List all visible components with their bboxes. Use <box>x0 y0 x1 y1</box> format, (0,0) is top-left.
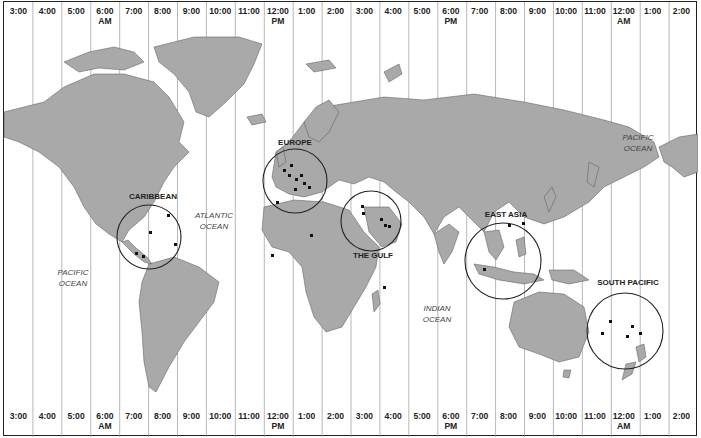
bottom-zone-14: 5:00 <box>408 403 437 435</box>
zone-time: 2:00 <box>327 6 344 16</box>
bottom-time-zone-footer: 3:004:005:006:00AM7:008:009:0010:0011:00… <box>4 403 696 435</box>
zone-time: 9:00 <box>183 411 200 421</box>
zone-time: 4:00 <box>39 6 56 16</box>
zone-time: 9:00 <box>529 6 546 16</box>
zone-time: 12:00 <box>267 6 289 16</box>
zone-meridiem: AM <box>609 16 638 26</box>
top-zone-10: 1:00 <box>292 2 321 34</box>
bottom-zone-9: 12:00PM <box>263 403 292 435</box>
new-guinea <box>549 270 589 284</box>
zone-time: 10:00 <box>209 6 231 16</box>
zone-time: 3:00 <box>10 411 27 421</box>
australia <box>509 292 589 362</box>
top-zone-17: 8:00 <box>494 2 523 34</box>
zone-time: 1:00 <box>298 411 315 421</box>
ocean-label: PACIFICOCEAN <box>58 267 89 289</box>
zone-time: 12:00 <box>613 411 635 421</box>
top-zone-3: 6:00AM <box>90 2 119 34</box>
top-zone-11: 2:00 <box>321 2 350 34</box>
southeast-asia <box>484 230 504 260</box>
zone-time: 11:00 <box>238 6 260 16</box>
bottom-zone-4: 7:00 <box>119 403 148 435</box>
zone-time: 7:00 <box>125 411 142 421</box>
ocean-name-line1: ATLANTIC <box>195 210 233 221</box>
zone-time: 2:00 <box>673 411 690 421</box>
zone-time: 3:00 <box>356 6 373 16</box>
bottom-zone-6: 9:00 <box>177 403 206 435</box>
arctic-islands <box>64 47 144 72</box>
zone-time: 2:00 <box>327 411 344 421</box>
zone-time: 8:00 <box>154 411 171 421</box>
region-label-caribbean: CARIBBEAN <box>129 192 177 201</box>
zone-time: 7:00 <box>125 6 142 16</box>
ocean-name-line1: PACIFIC <box>623 132 654 143</box>
zone-time: 5:00 <box>413 6 430 16</box>
bottom-zone-10: 1:00 <box>292 403 321 435</box>
ocean-name-line1: INDIAN <box>423 303 451 314</box>
zone-time: 10:00 <box>555 411 577 421</box>
zone-meridiem: AM <box>90 421 119 431</box>
top-zone-18: 9:00 <box>523 2 552 34</box>
zone-time: 4:00 <box>385 411 402 421</box>
ocean-name-line2: OCEAN <box>423 314 451 325</box>
zone-time: 8:00 <box>154 6 171 16</box>
madagascar <box>372 290 380 312</box>
zone-time: 10:00 <box>209 411 231 421</box>
ocean-label: ATLANTICOCEAN <box>195 210 233 232</box>
region-label-east-asia: EAST ASIA <box>485 210 527 219</box>
bottom-zone-21: 12:00AM <box>609 403 638 435</box>
zone-time: 1:00 <box>644 6 661 16</box>
zone-time: 1:00 <box>644 411 661 421</box>
region-label-europe: EUROPE <box>278 138 312 147</box>
zone-time: 6:00 <box>442 411 459 421</box>
zone-time: 4:00 <box>385 6 402 16</box>
philippines <box>516 237 526 257</box>
top-zone-16: 7:00 <box>465 2 494 34</box>
zone-meridiem: PM <box>263 421 292 431</box>
top-zone-9: 12:00PM <box>263 2 292 34</box>
bottom-zone-8: 11:00 <box>235 403 264 435</box>
indonesia <box>474 264 544 284</box>
bottom-zone-0: 3:00 <box>4 403 33 435</box>
top-zone-2: 5:00 <box>62 2 91 34</box>
top-zone-13: 4:00 <box>379 2 408 34</box>
zone-time: 5:00 <box>67 6 84 16</box>
ocean-name-line2: OCEAN <box>623 143 654 154</box>
zone-time: 11:00 <box>584 6 606 16</box>
bottom-zone-17: 8:00 <box>494 403 523 435</box>
top-zone-7: 10:00 <box>206 2 235 34</box>
zone-meridiem: AM <box>609 421 638 431</box>
region-label-south-pacific: SOUTH PACIFIC <box>597 278 659 287</box>
zone-time: 6:00 <box>96 6 113 16</box>
new-zealand <box>622 344 646 380</box>
zone-time: 12:00 <box>267 411 289 421</box>
bottom-zone-20: 11:00 <box>581 403 610 435</box>
zone-time: 3:00 <box>356 411 373 421</box>
zone-meridiem: PM <box>436 16 465 26</box>
zone-meridiem: PM <box>436 421 465 431</box>
top-zone-21: 12:00AM <box>609 2 638 34</box>
bottom-zone-13: 4:00 <box>379 403 408 435</box>
top-time-zone-header: 3:004:005:006:00AM7:008:009:0010:0011:00… <box>4 2 696 34</box>
zone-time: 8:00 <box>500 411 517 421</box>
map-frame: 3:004:005:006:00AM7:008:009:0010:0011:00… <box>3 1 697 436</box>
top-zone-5: 8:00 <box>148 2 177 34</box>
iceland <box>247 114 266 125</box>
world-map <box>4 2 698 437</box>
bottom-zone-2: 5:00 <box>62 403 91 435</box>
bottom-zone-1: 4:00 <box>33 403 62 435</box>
top-zone-14: 5:00 <box>408 2 437 34</box>
bottom-zone-19: 10:00 <box>552 403 581 435</box>
bottom-zone-7: 10:00 <box>206 403 235 435</box>
top-zone-0: 3:00 <box>4 2 33 34</box>
ocean-name-line1: PACIFIC <box>58 267 89 278</box>
zone-time: 7:00 <box>471 6 488 16</box>
zone-time: 9:00 <box>183 6 200 16</box>
zone-time: 2:00 <box>673 6 690 16</box>
zone-time: 11:00 <box>584 411 606 421</box>
bottom-zone-23: 2:00 <box>667 403 696 435</box>
zone-time: 4:00 <box>39 411 56 421</box>
zone-time: 6:00 <box>442 6 459 16</box>
zone-meridiem: PM <box>263 16 292 26</box>
top-zone-19: 10:00 <box>552 2 581 34</box>
